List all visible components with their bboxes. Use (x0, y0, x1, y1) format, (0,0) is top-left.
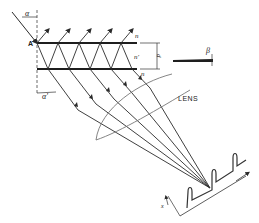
beam-arrow (74, 102, 78, 107)
screen-axis-arrow (236, 173, 248, 181)
transmitted-beam (132, 69, 210, 188)
screen-axis (180, 176, 246, 216)
reflected-beam (100, 30, 111, 43)
transmitted-beam (90, 69, 210, 188)
diagram-canvas: α α' A n n' n d β LENS x (0, 0, 259, 223)
offset-arrow (166, 197, 168, 205)
offset-line (168, 196, 180, 216)
fringe-pattern (187, 154, 246, 209)
label-index-plate: n' (134, 53, 140, 61)
wedge-plate (173, 59, 213, 62)
incident-ray (12, 12, 36, 42)
label-index-top: n (135, 32, 139, 40)
label-index-bottom: n (141, 70, 145, 78)
internal-reflections (37, 43, 132, 69)
reflected-beams (37, 30, 132, 43)
reflected-beam (79, 30, 90, 43)
label-thickness: d (155, 54, 163, 58)
reflected-beam (58, 30, 69, 43)
label-point-a: A (28, 40, 33, 47)
beam-arrows (74, 75, 142, 107)
label-alpha-prime: α' (42, 92, 48, 101)
transmitted-beam (111, 69, 210, 188)
label-beta: β (205, 46, 210, 55)
reflected-beam (121, 30, 132, 43)
reflected-beam (37, 30, 48, 43)
transmitted-beams (48, 69, 210, 188)
label-lens: LENS (178, 95, 198, 102)
label-x: x (160, 203, 164, 209)
beam-arrow (89, 94, 93, 99)
